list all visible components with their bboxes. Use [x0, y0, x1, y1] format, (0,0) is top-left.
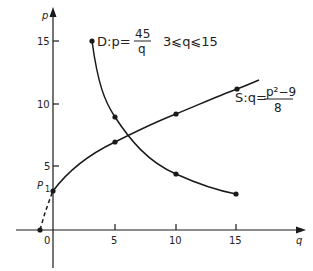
p-axis-label: p [41, 10, 48, 21]
supply-equation-denominator: 8 [274, 101, 282, 115]
p-axis-arrow-icon [50, 7, 57, 17]
supply-point-q5 [112, 139, 117, 144]
q-axis-arrow-icon [296, 227, 306, 234]
x-tick-label-10: 10 [169, 235, 182, 246]
demand-equation-numerator: 45 [135, 27, 150, 41]
demand-point-q5 [112, 114, 117, 119]
supply-point-p0 [37, 227, 42, 232]
supply-curve [53, 80, 259, 191]
demand-point-q3 [89, 38, 94, 43]
y-tick-label-5: 5 [44, 161, 50, 172]
supply-point-p1 [50, 188, 55, 193]
demand-domain: 3⩽q⩽15 [163, 34, 218, 49]
supply-demand-chart: 0 5 10 15 5 10 15 q p P 1 D:p= 45 q 3⩽q⩽… [0, 0, 313, 271]
demand-point-q10 [173, 171, 178, 176]
y-tick-label-10: 10 [37, 99, 50, 110]
supply-equation-numerator: p²−9 [266, 85, 296, 99]
demand-equation-prefix: D:p= [97, 34, 131, 49]
x-tick-label-5: 5 [111, 235, 117, 246]
demand-point-q15 [233, 191, 238, 196]
y-tick-label-15: 15 [37, 36, 50, 47]
supply-dashed-extension [40, 191, 53, 230]
x-tick-label-15: 15 [229, 235, 242, 246]
supply-equation-prefix: S:q= [235, 90, 267, 105]
q-axis-label: q [296, 235, 302, 246]
p1-subscript: 1 [45, 185, 50, 194]
demand-equation-denominator: q [138, 42, 146, 56]
origin-label: 0 [44, 235, 50, 246]
p1-label: P [37, 180, 44, 191]
supply-point-q10 [173, 111, 178, 116]
